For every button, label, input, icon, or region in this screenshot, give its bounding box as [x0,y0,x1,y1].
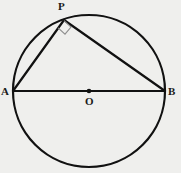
point-label-o: O [85,96,94,107]
geometry-figure: A B O P [0,0,181,173]
figure-canvas [0,0,181,173]
chord-segment-pb [64,20,165,91]
point-label-p: P [58,1,65,12]
point-label-b: B [168,86,175,97]
point-label-a: A [1,86,9,97]
center-point-dot [87,89,92,94]
